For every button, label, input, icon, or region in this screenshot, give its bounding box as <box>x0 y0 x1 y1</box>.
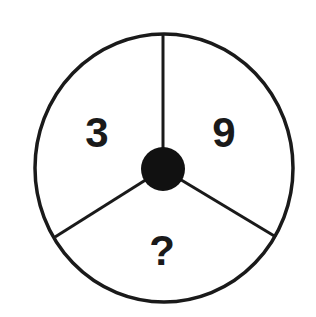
segment-top-right-value: 9 <box>212 109 235 156</box>
center-hub <box>141 147 185 191</box>
segment-bottom-value: ? <box>149 227 175 274</box>
segment-top-left-value: 3 <box>85 109 108 156</box>
number-wheel-puzzle: 3 9 ? <box>0 0 316 317</box>
